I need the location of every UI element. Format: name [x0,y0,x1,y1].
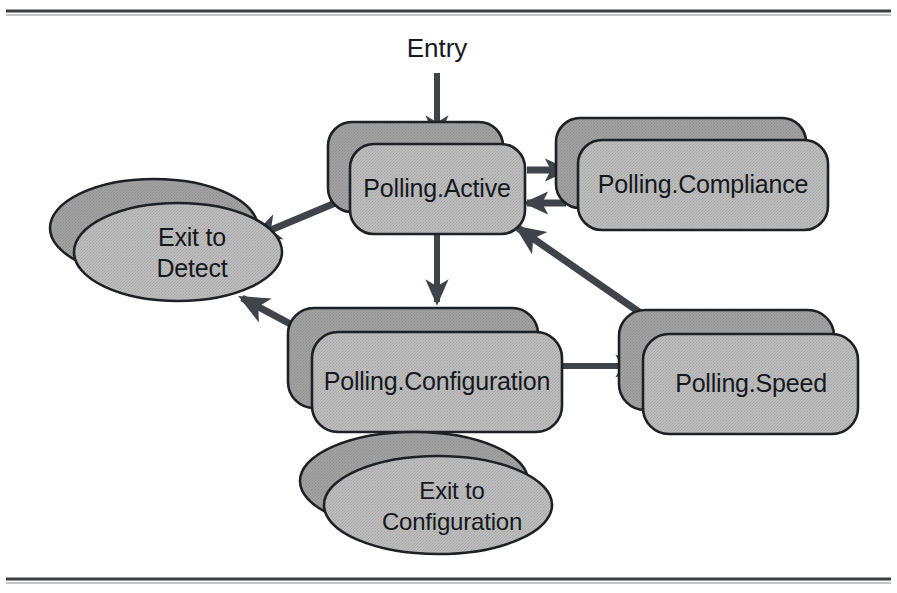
exit-to-detect-front-ellipse [74,203,282,301]
node-polling-configuration[interactable]: Polling.Configuration [288,308,562,432]
exit-to-configuration-front-ellipse [324,456,552,554]
polling-speed-label: Polling.Speed [675,369,827,397]
exit-to-configuration-label-line2: Configuration [382,508,522,535]
exit-to-detect-label-line2: Detect [156,254,227,282]
state-diagram: Exit to Detect Polling.Active Polling.Co… [0,0,897,593]
node-polling-active[interactable]: Polling.Active [328,122,525,234]
node-exit-to-detect[interactable]: Exit to Detect [50,179,282,301]
node-polling-compliance[interactable]: Polling.Compliance [556,118,828,230]
exit-to-detect-label-line1: Exit to [158,223,226,251]
polling-compliance-label: Polling.Compliance [598,170,808,198]
frame-bottom-rule [6,579,891,583]
diagram-canvas: Exit to Detect Polling.Active Polling.Co… [0,0,897,593]
polling-active-label: Polling.Active [363,174,510,202]
exit-to-configuration-label-line1: Exit to [419,477,484,504]
node-polling-speed[interactable]: Polling.Speed [619,310,858,434]
node-exit-to-configuration[interactable]: Exit to Configuration [300,432,552,554]
edge-speed-to-active [518,228,655,323]
entry-label: Entry [407,33,468,63]
frame-top-rule [6,11,891,15]
polling-configuration-label: Polling.Configuration [324,367,551,395]
